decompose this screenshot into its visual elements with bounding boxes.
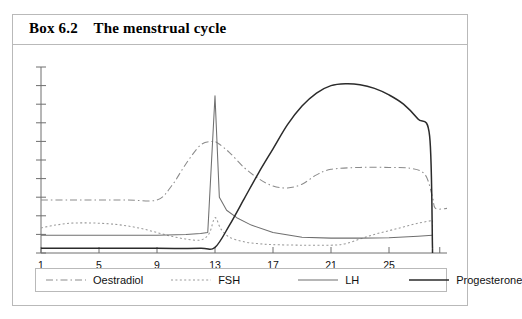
- legend-item-lh: LH: [298, 269, 359, 291]
- thin-solid-line-icon: [298, 275, 338, 285]
- thick-solid-line-icon: [409, 275, 449, 285]
- legend-item-oestradiol: Oestradiol: [46, 269, 143, 291]
- chart-legend: Oestradiol FSH LH Progesterone: [35, 268, 447, 292]
- box-frame: Box 6.2 The menstrual cycle 15913172125 …: [12, 14, 468, 306]
- box-header: Box 6.2 The menstrual cycle: [13, 15, 467, 45]
- legend-item-progesterone: Progesterone: [409, 269, 522, 291]
- page-title: Box 6.2 The menstrual cycle: [29, 20, 226, 37]
- dotted-line-icon: [171, 275, 211, 285]
- legend-label-progesterone: Progesterone: [456, 274, 522, 286]
- menstrual-cycle-line-chart: 15913172125: [13, 45, 467, 275]
- legend-label-oestradiol: Oestradiol: [93, 274, 143, 286]
- chart-series-layer: [41, 84, 447, 253]
- legend-item-fsh: FSH: [171, 269, 240, 291]
- series-line-fsh: [41, 218, 433, 246]
- legend-label-lh: LH: [345, 274, 359, 286]
- dash-dot-line-icon: [46, 275, 86, 285]
- series-line-progesterone: [41, 84, 433, 250]
- legend-label-fsh: FSH: [218, 274, 240, 286]
